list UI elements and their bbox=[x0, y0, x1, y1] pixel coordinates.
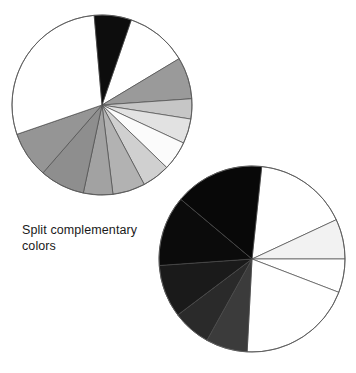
figure-caption: Split complementary colors bbox=[22, 222, 182, 254]
pie-chart-bottom bbox=[159, 166, 345, 352]
pie-chart-top bbox=[12, 15, 192, 195]
caption-line-1: Split complementary bbox=[22, 222, 182, 238]
split-complementary-figure bbox=[0, 0, 356, 373]
caption-line-2: colors bbox=[22, 238, 182, 254]
